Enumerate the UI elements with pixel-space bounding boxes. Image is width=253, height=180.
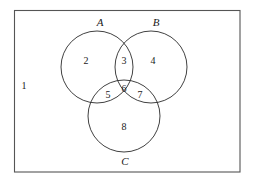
- universal-set-rectangle: [15, 11, 241, 173]
- region-number-5: 5: [106, 89, 111, 100]
- venn-diagram-container: A B C 1 2 3 4 5 6 7 8: [0, 0, 253, 180]
- region-number-3: 3: [122, 55, 127, 66]
- region-number-4: 4: [151, 55, 156, 66]
- region-number-8: 8: [122, 121, 127, 132]
- region-number-7: 7: [138, 89, 143, 100]
- region-number-1: 1: [22, 80, 27, 91]
- region-number-6: 6: [122, 83, 127, 94]
- set-label-a: A: [96, 16, 104, 28]
- set-label-b: B: [153, 16, 160, 28]
- set-label-c: C: [121, 155, 129, 167]
- region-number-2: 2: [84, 55, 89, 66]
- venn-diagram-canvas: A B C 1 2 3 4 5 6 7 8: [0, 0, 253, 180]
